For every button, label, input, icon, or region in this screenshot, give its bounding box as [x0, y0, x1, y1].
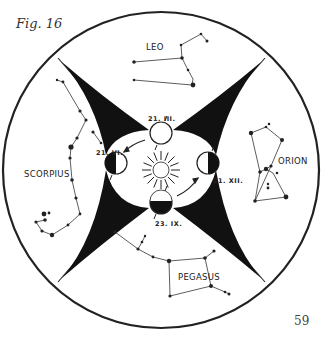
constellation-pegasus: [113, 230, 230, 297]
page-number: 59: [294, 314, 309, 328]
constellation-label-orion: ORION: [278, 156, 308, 166]
constellation-label-leo: LEO: [146, 42, 164, 52]
date-label-left: 21. VI.: [96, 149, 123, 157]
constellation-label-scorpius: SCORPIUS: [24, 169, 70, 179]
date-label-top: 21. III.: [148, 115, 176, 123]
sun-icon: [142, 151, 180, 189]
constellation-label-pegasus: PEGASUS: [178, 272, 220, 282]
zodiac-orbit-diagram: 21. III. 21. VI. 21. XII. 23. IX. LEO: [0, 0, 323, 340]
earth-bottom: [150, 186, 172, 219]
date-label-right: 21. XII.: [213, 177, 243, 185]
constellation-leo: [132, 33, 208, 88]
date-label-bottom: 23. IX.: [155, 220, 182, 228]
